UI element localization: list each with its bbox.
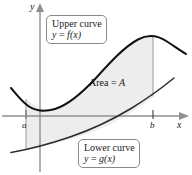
callout-lower-title: Lower curve <box>84 142 135 153</box>
area-label-symbol: A <box>119 77 125 88</box>
callout-lower-equation: y = g(x) <box>84 153 135 164</box>
shaded-area-region <box>26 36 153 150</box>
callout-lower-equals: = <box>88 153 99 164</box>
y-axis-label: y <box>30 1 34 12</box>
callout-lower-arg: (x) <box>104 153 115 164</box>
callout-upper-arg: (x) <box>70 29 81 40</box>
tick-label-a: a <box>22 120 27 130</box>
callout-upper-title: Upper curve <box>52 18 102 29</box>
callout-upper-equation: y = f(x) <box>52 29 102 40</box>
area-label-text: Area = <box>89 77 119 88</box>
area-between-curves-figure: Upper curve y = f(x) Lower curve y = g(x… <box>0 0 192 175</box>
callout-upper-curve: Upper curve y = f(x) <box>46 15 107 44</box>
y-axis-arrowhead <box>36 3 44 12</box>
area-label: Area = A <box>89 77 125 88</box>
callout-lower-curve: Lower curve y = g(x) <box>78 139 140 168</box>
callout-upper-equals: = <box>56 29 67 40</box>
tick-label-b: b <box>150 120 155 130</box>
x-axis-label: x <box>177 119 181 130</box>
